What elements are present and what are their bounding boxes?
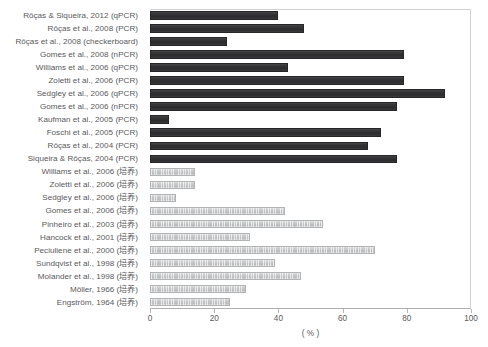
bar-molecular [150, 115, 169, 124]
category-label: Molander et al., 1998 (培养) [0, 270, 143, 283]
x-axis-tick-label: 0 [148, 314, 153, 323]
category-label: Rôças et al., 2008 (PCR) [0, 22, 143, 35]
category-label: Rôças et al., 2008 (checkerboard) [0, 35, 143, 48]
x-axis-title: ( % ) [302, 329, 319, 338]
category-label: Gomes et al., 2006 (nPCR) [0, 100, 143, 113]
category-label: Gomes et al., 2008 (nPCR) [0, 48, 143, 61]
bar-culture [150, 207, 285, 216]
x-axis-tick [214, 309, 215, 313]
category-label: Gomes et al., 2006 (培养) [0, 204, 143, 217]
bar-molecular [150, 50, 404, 59]
bar-culture [150, 246, 375, 255]
x-axis-tick [278, 309, 279, 313]
bar-culture [150, 181, 195, 190]
bar-molecular [150, 11, 278, 20]
category-axis-labels: Rôças & Siqueira, 2012 (qPCR)Rôças et al… [0, 9, 143, 309]
bar-row [150, 23, 471, 36]
bar-row [150, 75, 471, 88]
bar-series-container [150, 10, 471, 310]
category-label: Siqueira & Rôças, 2004 (PCR) [0, 152, 143, 165]
bar-row [150, 271, 471, 284]
x-axis-tick-label: 60 [338, 314, 347, 323]
bar-row [150, 179, 471, 192]
bar-row [150, 114, 471, 127]
category-label: Williams et al., 2006 (培养) [0, 165, 143, 178]
bar-molecular [150, 63, 288, 72]
bar-row [150, 101, 471, 114]
category-label: Rôças et al., 2004 (PCR) [0, 139, 143, 152]
x-axis-tick [150, 309, 151, 313]
category-label: Rôças & Siqueira, 2012 (qPCR) [0, 9, 143, 22]
bar-culture [150, 194, 176, 203]
x-axis-tick [471, 309, 472, 313]
bar-culture [150, 220, 323, 229]
category-label: Pinheiro et al., 2003 (培养) [0, 218, 143, 231]
x-axis-tick [407, 309, 408, 313]
bar-row [150, 232, 471, 245]
bar-row [150, 140, 471, 153]
category-label: Hancock et al., 2001 (培养) [0, 231, 143, 244]
bar-row [150, 62, 471, 75]
bar-molecular [150, 76, 404, 85]
category-label: Zoletti et al., 2006 (PCR) [0, 74, 143, 87]
category-label: Sedgley et al., 2006 (qPCR) [0, 87, 143, 100]
bar-row [150, 36, 471, 49]
x-axis: ( % ) 020406080100 [150, 309, 471, 347]
bar-row [150, 258, 471, 271]
category-label: Foschi et al., 2005 (PCR) [0, 126, 143, 139]
category-label: Zoletti et al., 2006 (培养) [0, 178, 143, 191]
bar-culture [150, 233, 250, 242]
bar-chart: Rôças & Siqueira, 2012 (qPCR)Rôças et al… [0, 0, 488, 347]
x-axis-tick [343, 309, 344, 313]
bar-molecular [150, 102, 397, 111]
bar-row [150, 127, 471, 140]
bar-row [150, 245, 471, 258]
x-axis-tick-label: 20 [210, 314, 219, 323]
bar-molecular [150, 128, 381, 137]
category-label: Sundqvist et al., 1998 (培养) [0, 257, 143, 270]
bar-molecular [150, 37, 227, 46]
bar-molecular [150, 142, 368, 151]
category-label: Sedgley et al., 2006 (培养) [0, 191, 143, 204]
bar-culture [150, 272, 301, 281]
bar-molecular [150, 155, 397, 164]
bar-row [150, 297, 471, 310]
bar-row [150, 166, 471, 179]
category-label: Kaufman et al., 2005 (PCR) [0, 113, 143, 126]
bar-culture [150, 285, 246, 294]
category-label: Engström, 1964 (培养) [0, 296, 143, 309]
category-label: Möller, 1966 (培养) [0, 283, 143, 296]
bar-row [150, 284, 471, 297]
bar-row [150, 219, 471, 232]
bar-row [150, 10, 471, 23]
category-label: Peciuliene et al., 2000 (培养) [0, 244, 143, 257]
bar-row [150, 192, 471, 205]
bar-row [150, 153, 471, 166]
x-axis-tick-label: 100 [464, 314, 478, 323]
x-axis-tick-label: 40 [274, 314, 283, 323]
bar-molecular [150, 89, 445, 98]
bar-culture [150, 259, 275, 268]
bar-molecular [150, 24, 304, 33]
plot-area [150, 9, 471, 309]
bar-row [150, 88, 471, 101]
bar-row [150, 205, 471, 218]
x-axis-tick-label: 80 [402, 314, 411, 323]
bar-culture [150, 168, 195, 177]
category-label: Williams et al., 2006 (qPCR) [0, 61, 143, 74]
bar-row [150, 49, 471, 62]
bar-culture [150, 298, 230, 307]
